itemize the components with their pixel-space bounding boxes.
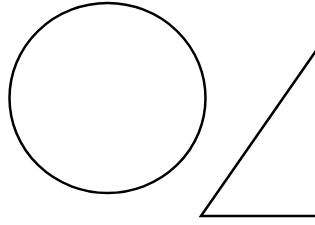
circle-shape	[10, 3, 206, 193]
diagram-canvas	[0, 0, 315, 225]
triangle-shape	[201, 48, 315, 216]
